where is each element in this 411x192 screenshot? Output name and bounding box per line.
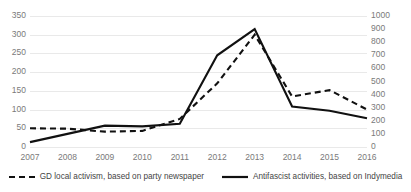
x-axis-tick-label: 2008 bbox=[50, 152, 84, 162]
series-line-gd-local-activism bbox=[30, 35, 367, 132]
chart-container: 050100150200250300350 010020030040050060… bbox=[0, 0, 411, 192]
y-axis-right-tick-label: 400 bbox=[371, 90, 405, 99]
y-axis-right-tick-label: 200 bbox=[371, 116, 405, 125]
y-axis-right-tick-label: 800 bbox=[371, 37, 405, 46]
y-axis-right-tick-label: 1000 bbox=[371, 11, 405, 20]
y-axis-left-tick-label: 100 bbox=[0, 105, 26, 114]
y-axis-right-tick-label: 500 bbox=[371, 77, 405, 86]
plot-area bbox=[30, 16, 367, 147]
y-axis-right-tick-label: 700 bbox=[371, 50, 405, 59]
y-axis-left-tick-label: 250 bbox=[0, 48, 26, 57]
x-axis-tick-label: 2009 bbox=[88, 152, 122, 162]
y-axis-left-tick-label: 300 bbox=[0, 30, 26, 39]
y-axis-right-tick-label: 600 bbox=[371, 63, 405, 72]
gridline bbox=[30, 147, 367, 148]
legend-label-gd-local-activism: GD local activism, based on party newspa… bbox=[40, 172, 204, 182]
x-axis-tick-label: 2015 bbox=[313, 152, 347, 162]
x-axis-tick-label: 2013 bbox=[238, 152, 272, 162]
legend-swatch-solid-icon bbox=[222, 173, 248, 181]
y-axis-right-tick-label: 900 bbox=[371, 24, 405, 33]
x-axis-tick-label: 2016 bbox=[350, 152, 384, 162]
y-axis-left-tick-label: 200 bbox=[0, 67, 26, 76]
chart-title bbox=[0, 0, 411, 2]
x-axis-tick-label: 2007 bbox=[13, 152, 47, 162]
x-axis-tick-label: 2012 bbox=[200, 152, 234, 162]
legend-item-antifascist-activities: Antifascist activities, based on Indymed… bbox=[222, 172, 402, 182]
chart-legend: GD local activism, based on party newspa… bbox=[0, 172, 411, 182]
series-layer bbox=[30, 16, 367, 147]
series-line-antifascist-activities bbox=[30, 29, 367, 142]
y-axis-left-tick-label: 350 bbox=[0, 11, 26, 20]
x-axis-tick-label: 2010 bbox=[125, 152, 159, 162]
x-axis-tick-label: 2014 bbox=[275, 152, 309, 162]
y-axis-left-tick-label: 0 bbox=[0, 142, 26, 151]
legend-label-antifascist-activities: Antifascist activities, based on Indymed… bbox=[253, 172, 402, 182]
y-axis-left-tick-label: 50 bbox=[0, 123, 26, 132]
y-axis-right-tick-label: 0 bbox=[371, 142, 405, 151]
y-axis-right-tick-label: 300 bbox=[371, 103, 405, 112]
y-axis-left-tick-label: 150 bbox=[0, 86, 26, 95]
legend-item-gd-local-activism: GD local activism, based on party newspa… bbox=[9, 172, 204, 182]
legend-swatch-dashed-icon bbox=[9, 173, 35, 181]
y-axis-right-tick-label: 100 bbox=[371, 129, 405, 138]
x-axis-tick-label: 2011 bbox=[163, 152, 197, 162]
